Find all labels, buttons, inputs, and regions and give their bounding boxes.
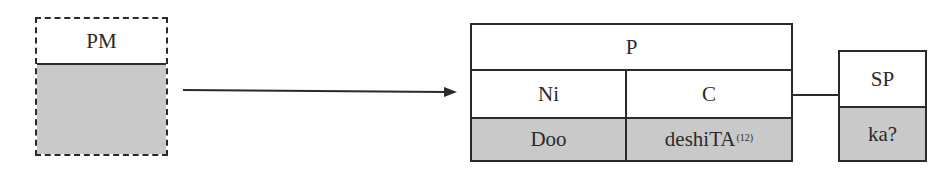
sp-box: SP ka?: [838, 50, 927, 162]
c-value-text: deshiTA: [665, 127, 736, 152]
footnote-marker: (12): [736, 132, 753, 143]
c-header: C: [627, 71, 791, 117]
ni-value: Doo: [472, 119, 627, 160]
p-column-headers: Ni C: [472, 71, 791, 119]
pm-header: PM: [37, 19, 166, 65]
ni-header: Ni: [472, 71, 627, 117]
pm-box: PM: [35, 17, 168, 156]
p-header: P: [472, 25, 791, 71]
sp-header: SP: [840, 52, 925, 108]
sp-value: ka?: [840, 108, 925, 160]
p-values: Doo deshiTA(12): [472, 119, 791, 160]
p-box: P Ni C Doo deshiTA(12): [470, 23, 793, 162]
arrow-pm-to-p: [183, 87, 457, 97]
pm-body: [37, 65, 166, 154]
c-value: deshiTA(12): [627, 119, 791, 160]
